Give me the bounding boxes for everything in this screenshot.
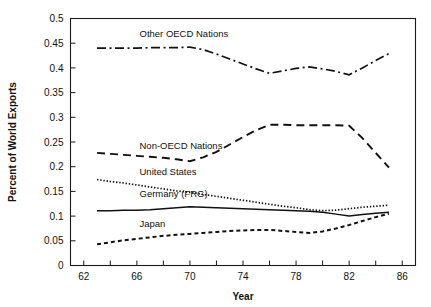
x-tick-label: 74 [237, 271, 249, 282]
axis-tickmarks [71, 19, 403, 266]
y-tick-label: 0.5 [50, 13, 64, 24]
x-axis-tick-labels: 62667074788286 [78, 271, 408, 282]
y-tick-label: 0.05 [44, 235, 64, 246]
y-tick-label: 0.2 [50, 161, 64, 172]
series-label-other-oecd-nations: Other OECD Nations [140, 28, 229, 39]
x-tick-label: 86 [397, 271, 409, 282]
x-tick-label: 66 [131, 271, 143, 282]
x-tick-label: 78 [291, 271, 303, 282]
series-line-germany-frg [97, 207, 389, 216]
y-axis-title: Percent of World Exports [7, 82, 18, 202]
series-label-japan: Japan [140, 218, 166, 229]
y-tick-label: 0.3 [50, 112, 64, 123]
series-inline-labels: Other OECD NationsNon-OECD NationsUnited… [140, 28, 229, 229]
x-tick-label: 62 [78, 271, 90, 282]
x-axis-title: Year [232, 291, 253, 302]
chart-figure: 00.050.10.150.20.250.30.350.40.450.5 626… [0, 0, 431, 307]
y-tick-label: 0.45 [44, 38, 64, 49]
y-tick-label: 0.15 [44, 186, 64, 197]
series-line-other-oecd-nations [97, 47, 389, 75]
y-axis-tick-labels: 00.050.10.150.20.250.30.350.40.450.5 [44, 13, 64, 271]
y-tick-label: 0.25 [44, 137, 64, 148]
x-tick-label: 82 [344, 271, 356, 282]
y-tick-label: 0.35 [44, 87, 64, 98]
x-tick-label: 70 [184, 271, 196, 282]
plot-frame [71, 19, 416, 266]
line-chart: 00.050.10.150.20.250.30.350.40.450.5 626… [0, 0, 431, 307]
series-label-united-states: United States [140, 166, 197, 177]
y-tick-label: 0.1 [50, 211, 64, 222]
series-label-germany-frg: Germany (FRG) [140, 188, 208, 199]
series-label-non-oecd-nations: Non-OECD Nations [140, 140, 223, 151]
y-tick-label: 0 [58, 260, 64, 271]
y-tick-label: 0.4 [50, 63, 64, 74]
